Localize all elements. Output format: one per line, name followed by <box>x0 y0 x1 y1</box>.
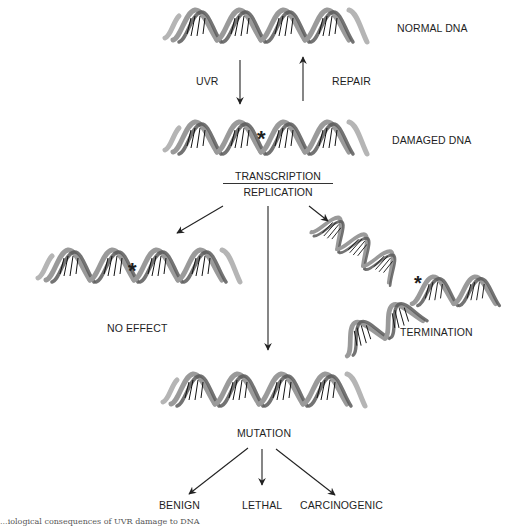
transcription-replication-label: TRANSCRIPTION REPLICATION <box>223 170 333 198</box>
label-divider <box>223 183 333 184</box>
uvr-label: UVR <box>196 75 218 87</box>
damage-marker-no-effect: * <box>128 258 137 284</box>
repair-label: REPAIR <box>332 75 371 87</box>
replication-label: REPLICATION <box>223 186 333 198</box>
arrow-to-benign <box>189 448 248 494</box>
termination-label: TERMINATION <box>400 326 473 338</box>
damage-marker-termination: * <box>414 272 422 295</box>
no-effect-label: NO EFFECT <box>107 322 167 334</box>
normal-dna-helix <box>165 10 367 42</box>
benign-label: BENIGN <box>159 499 200 511</box>
arrow-to-termination <box>309 206 328 221</box>
figure-caption-fragment: ...iological consequences of UVR damage … <box>0 517 200 526</box>
mutation-helix <box>163 374 365 406</box>
mutation-label: MUTATION <box>237 427 291 439</box>
lethal-label: LETHAL <box>242 499 282 511</box>
carcinogenic-label: CARCINOGENIC <box>300 499 383 511</box>
damage-marker-damaged: * <box>257 126 266 152</box>
arrow-to-no-effect <box>177 206 223 233</box>
no-effect-helix <box>38 250 240 282</box>
transcription-label: TRANSCRIPTION <box>223 170 333 182</box>
normal-dna-label: NORMAL DNA <box>397 22 468 34</box>
damaged-dna-helix <box>165 122 367 154</box>
damaged-dna-label: DAMAGED DNA <box>392 134 471 146</box>
arrow-to-carcinogenic <box>276 449 335 495</box>
